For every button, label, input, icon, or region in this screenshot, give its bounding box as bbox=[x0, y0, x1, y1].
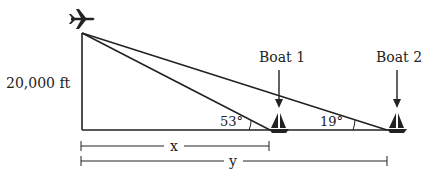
altitude-label: 20,000 ft bbox=[6, 75, 71, 91]
angle-arc-53 bbox=[249, 120, 251, 130]
boat-2-label: Boat 2 bbox=[376, 49, 422, 65]
arrow-down-icon bbox=[275, 70, 283, 108]
sailboat-icon bbox=[387, 113, 407, 133]
distance-x-label: x bbox=[170, 138, 178, 154]
sailboat-icon bbox=[269, 113, 289, 133]
distance-y-label: y bbox=[228, 153, 237, 169]
angle-arc-19 bbox=[353, 120, 355, 130]
boat-1-label: Boat 1 bbox=[259, 49, 305, 65]
angle-label-53: 53° bbox=[220, 114, 243, 129]
angle-label-19: 19° bbox=[320, 114, 343, 129]
trig-diagram: 53° 19° 20,000 ft Boat 1 Boat 2 x y bbox=[0, 0, 429, 183]
airplane-icon bbox=[69, 9, 95, 29]
arrow-down-icon bbox=[393, 70, 401, 108]
